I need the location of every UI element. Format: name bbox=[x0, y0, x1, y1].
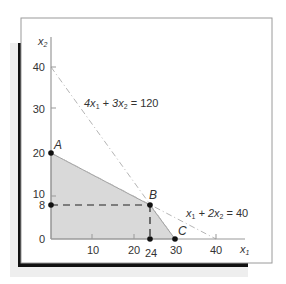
point-b-marker bbox=[147, 202, 153, 208]
point-b-label: B bbox=[149, 188, 157, 202]
point-a-label: A bbox=[53, 138, 62, 152]
y-tick-label-0: 0 bbox=[39, 233, 45, 245]
y-tick-label-30: 30 bbox=[33, 103, 45, 115]
x-tick-label-24: 24 bbox=[145, 247, 157, 259]
x-tick-label-10: 10 bbox=[87, 244, 99, 256]
lp-graph-figure: 40 30 20 10 8 0 10 20 24 30 40 x2 x1 4x1… bbox=[0, 0, 286, 284]
point-c-marker bbox=[172, 236, 178, 242]
y-tick-label-40: 40 bbox=[33, 61, 45, 73]
point-a-marker bbox=[48, 150, 54, 156]
x-tick-label-20: 20 bbox=[128, 244, 140, 256]
point-24-marker bbox=[147, 236, 153, 242]
x-tick-label-40: 40 bbox=[210, 244, 222, 256]
x-tick-label-30: 30 bbox=[170, 244, 182, 256]
y-tick-label-8: 8 bbox=[39, 199, 45, 211]
point-c-label: C bbox=[178, 224, 187, 238]
y-tick-label-20: 20 bbox=[33, 147, 45, 159]
constraint-label-1: 4x1 + 3x2 = 120 bbox=[84, 97, 158, 110]
point-8-marker bbox=[48, 202, 54, 208]
constraint-label-2: x1 + 2x2 = 40 bbox=[185, 207, 248, 220]
